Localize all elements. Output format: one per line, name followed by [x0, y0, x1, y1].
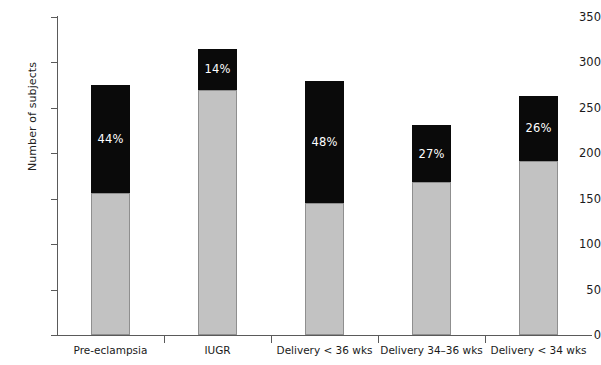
bar-segment-upper: 44%	[91, 85, 130, 193]
bar-percentage-label: 48%	[306, 135, 343, 149]
bar-segment-upper: 14%	[198, 49, 237, 90]
x-axis-tick-label: Pre-eclampsia	[57, 344, 164, 356]
bar-percentage-label: 27%	[413, 147, 450, 161]
x-axis-tick-label: IUGR	[164, 344, 271, 356]
bar-segment-lower	[412, 182, 451, 335]
x-axis-tick	[378, 336, 379, 343]
x-axis-tick-label: Delivery 34–36 wks	[378, 344, 485, 356]
x-axis-tick-label: Delivery < 36 wks	[271, 344, 378, 356]
bar-percentage-label: 14%	[199, 62, 236, 76]
bar-percentage-label: 44%	[92, 132, 129, 146]
bar-stack: 26%	[519, 96, 558, 335]
bar-stack: 44%	[91, 85, 130, 335]
x-axis-tick	[271, 336, 272, 343]
bar-segment-upper: 48%	[305, 81, 344, 204]
y-axis-title: Number of subjects	[26, 27, 39, 207]
bar-segment-lower	[198, 90, 237, 335]
bar-percentage-label: 26%	[520, 121, 557, 135]
bar-segment-lower	[91, 193, 130, 335]
bar-segment-lower	[305, 203, 344, 335]
bar-stack: 48%	[305, 81, 344, 335]
bar-segment-upper: 27%	[412, 125, 451, 182]
x-axis-tick-label: Delivery < 34 wks	[485, 344, 592, 356]
x-axis-tick	[485, 336, 486, 343]
bar-stack: 27%	[412, 125, 451, 335]
bar-segment-upper: 26%	[519, 96, 558, 161]
plot-area: 44%14%48%27%26%	[57, 0, 592, 365]
bar-segment-lower	[519, 161, 558, 335]
x-axis-tick	[164, 336, 165, 343]
bar-stack: 14%	[198, 49, 237, 335]
chart-canvas: Number of subjects 050100150200250300350…	[0, 0, 601, 365]
